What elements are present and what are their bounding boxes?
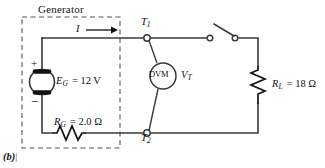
dvm-lead-upper: [149, 41, 157, 64]
generator-box-title: Generator: [38, 4, 84, 15]
terminal-voltage-label: VT: [181, 70, 192, 81]
dvm-lead-lower: [149, 89, 158, 131]
load-resistor-symbol: [251, 66, 265, 104]
terminal-node-t1[interactable]: [144, 35, 150, 41]
source-label: EG= 12 V: [56, 76, 101, 87]
switch-symbol[interactable]: [207, 24, 238, 41]
terminal-voltage-subscript: T: [187, 73, 191, 82]
figure-caption-text: (b): [3, 151, 15, 162]
polarity-plus-label: +: [31, 58, 37, 69]
voltage-source-symbol: [30, 70, 55, 95]
dvm-meter-symbol: [149, 41, 176, 131]
polarity-minus-label: −: [31, 95, 38, 108]
circuit-diagram-figure: Generator I T1 T2 DVM VT EG= 12 V RG= 2.…: [0, 0, 325, 168]
wire-bottom-left: [42, 94, 53, 133]
source-value: = 12 V: [72, 75, 101, 86]
switch-left-contact-node[interactable]: [207, 35, 213, 41]
wire-bottom-right: [86, 104, 258, 133]
switch-blade[interactable]: [214, 24, 234, 36]
load-resistor-label: RL= 18 Ω: [272, 79, 316, 90]
terminal-1-subscript: 1: [147, 20, 151, 29]
figure-caption: (b)|: [3, 152, 17, 163]
current-arrow: [86, 26, 118, 33]
current-label: I: [76, 24, 80, 35]
terminal-1-label: T1: [141, 17, 151, 28]
source-subscript: G: [62, 79, 67, 88]
load-resistor-value: = 18 Ω: [287, 78, 316, 89]
terminal-2-label: T2: [141, 133, 151, 144]
internal-resistor-subscript: G: [60, 120, 65, 129]
current-arrow-head: [111, 26, 118, 33]
caption-tick: |: [15, 151, 17, 162]
internal-resistor-value: = 2.0 Ω: [70, 116, 102, 127]
load-resistor-subscript: L: [278, 82, 282, 91]
terminal-2-subscript: 2: [147, 136, 151, 145]
wire-top-right: [235, 38, 258, 66]
dvm-label: DVM: [149, 70, 168, 79]
internal-resistor-label: RG= 2.0 Ω: [54, 117, 102, 128]
